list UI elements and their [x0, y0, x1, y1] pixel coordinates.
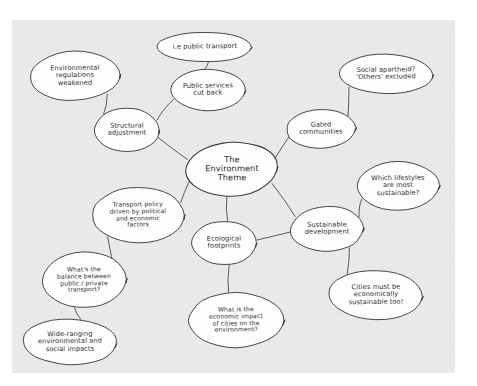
- edge-structural-adjustment-to-environmental-regulations-weakened: [104, 94, 107, 113]
- edge-gated-communities-to-social-apartheid: [348, 87, 349, 116]
- edge-central-to-sustainable-development: [272, 184, 295, 217]
- node-bubble-structural-adjustment[interactable]: [94, 108, 159, 151]
- edge-central-to-structural-adjustment: [158, 138, 187, 160]
- node-bubble-sustainable-development[interactable]: [290, 206, 364, 251]
- node-bubble-ecological-footprints[interactable]: [191, 222, 256, 265]
- node-bubble-transport-policy[interactable]: [93, 188, 185, 243]
- node-bubble-gated-communities[interactable]: [287, 110, 356, 149]
- edge-central-to-ecological-footprints: [226, 196, 227, 220]
- edge-central-to-gated-communities: [275, 137, 288, 157]
- node-bubble-economic-impact-of-cities[interactable]: [188, 292, 285, 348]
- node-bubble-wide-ranging-impacts[interactable]: [23, 319, 117, 365]
- edge-balance-public-private-to-wide-ranging-impacts: [74, 308, 80, 319]
- edge-sustainable-development-to-cities-economically-sustainable: [347, 248, 349, 275]
- edge-sustainable-development-to-ecological-footprints: [257, 232, 290, 240]
- node-bubble-public-services-cut-back[interactable]: [171, 69, 246, 111]
- node-bubble-cities-economically-sustainable[interactable]: [329, 271, 423, 320]
- edge-sustainable-development-to-which-lifestyles: [359, 199, 362, 217]
- node-bubble-balance-public-private[interactable]: [42, 252, 127, 307]
- edge-central-to-transport-policy: [181, 181, 190, 202]
- bubble-layer: [23, 33, 440, 365]
- edge-ecological-footprints-to-economic-impact-of-cities: [228, 265, 229, 292]
- edge-public-services-cut-back-to-ie-public-transport: [205, 62, 208, 68]
- edge-transport-policy-to-balance-public-private: [108, 237, 112, 258]
- mindmap-svg: [0, 0, 477, 386]
- mindmap-stage: The Environment ThemeStructural adjustme…: [0, 0, 477, 386]
- node-bubble-environmental-regulations-weakened[interactable]: [31, 51, 121, 100]
- node-bubble-which-lifestyles[interactable]: [357, 161, 440, 210]
- node-bubble-central[interactable]: [186, 142, 278, 196]
- node-bubble-social-apartheid[interactable]: [339, 54, 433, 93]
- node-bubble-ie-public-transport[interactable]: [157, 33, 252, 62]
- edge-structural-adjustment-to-public-services-cut-back: [157, 100, 173, 121]
